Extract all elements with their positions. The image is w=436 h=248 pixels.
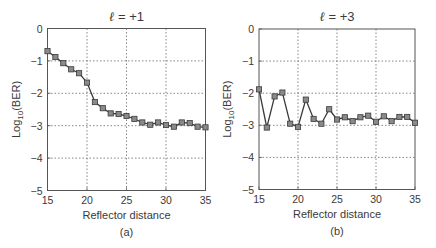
square-marker [179,120,184,125]
square-marker [171,124,176,129]
y-tick-label: −2 [242,87,254,99]
title-value: = +3 [325,9,355,24]
square-marker [389,119,394,124]
square-marker [280,90,285,95]
x-tick-label: 20 [292,193,304,205]
y-axis-label: Log10(BER) [221,81,236,138]
square-marker [381,114,386,119]
square-marker [148,122,153,127]
grid [259,29,415,190]
square-marker [295,124,300,129]
square-marker [195,124,200,129]
x-tick-label: 15 [42,194,54,206]
square-marker [334,117,339,122]
y-tick-label: −5 [242,184,254,196]
panel-label: (b) [330,225,343,237]
square-marker [187,121,192,126]
chart-svg: 15202530350−1−2−3−4−5ℓ = +1Reflector dis… [0,0,436,248]
title-value: = +1 [114,9,144,24]
y-tick-label: −1 [31,55,43,67]
panel-label: (a) [120,226,133,238]
square-marker [264,125,269,130]
x-tick-label: 25 [121,194,133,206]
square-marker [311,116,316,121]
square-marker [256,87,261,92]
square-marker [303,97,308,102]
square-marker [124,113,129,118]
y-axis-label: Log10(BER) [10,81,25,138]
x-axis-label: Reflector distance [82,209,170,221]
square-marker [92,99,97,104]
square-marker [412,120,417,125]
y-tick-label: 0 [37,23,43,35]
square-marker [156,120,161,125]
square-marker [342,115,347,120]
square-marker [366,113,371,118]
square-marker [203,125,208,130]
square-marker [350,119,355,124]
x-tick-label: 30 [370,193,382,205]
square-marker [100,106,105,111]
plot-frame [259,29,415,190]
square-marker [358,115,363,120]
square-marker [163,122,168,127]
x-tick-label: 35 [200,194,212,206]
square-marker [373,119,378,124]
y-tick-label: −3 [242,119,254,131]
x-tick-label: 25 [331,193,343,205]
square-marker [327,107,332,112]
y-tick-label: −3 [31,120,43,132]
square-marker [53,54,58,59]
y-tick-label: −2 [31,87,43,99]
figure: 15202530350−1−2−3−4−5ℓ = +1Reflector dis… [0,0,436,248]
square-marker [272,94,277,99]
y-tick-label: −5 [31,185,43,197]
square-marker [288,121,293,126]
x-tick-label: 15 [253,193,265,205]
square-marker [69,67,74,72]
x-tick-label: 35 [409,193,421,205]
x-tick-label: 30 [160,194,172,206]
square-marker [405,114,410,119]
square-marker [116,111,121,116]
square-marker [45,49,50,54]
y-tick-label: −4 [31,152,43,164]
subplot-a: 15202530350−1−2−3−4−5ℓ = +1Reflector dis… [10,9,211,238]
chart-title: ℓ = +3 [319,9,354,24]
square-marker [140,120,145,125]
square-marker [132,116,137,121]
grid [48,29,206,191]
y-tick-label: −1 [242,55,254,67]
square-marker [397,114,402,119]
square-marker [84,80,89,85]
subplot-b: 15202530350−1−2−3−4−5ℓ = +3Reflector dis… [221,9,421,237]
square-marker [61,61,66,66]
y-tick-label: −4 [242,151,254,163]
x-axis-label: Reflector distance [293,208,381,220]
square-marker [77,71,82,76]
y-tick-label: 0 [248,23,254,35]
chart-title: ℓ = +1 [109,9,144,24]
square-marker [319,121,324,126]
square-marker [108,111,113,116]
x-tick-label: 20 [81,194,93,206]
